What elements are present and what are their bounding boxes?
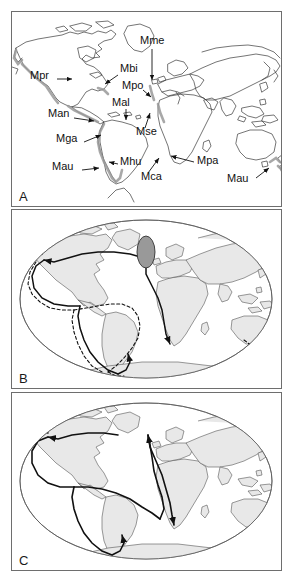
map-label-mca: Mca	[141, 171, 162, 182]
map-label-mpa: Mpa	[197, 155, 218, 166]
panel-c: C	[11, 392, 282, 571]
map-label-mse: Mse	[136, 126, 157, 137]
map-label-mga: Mga	[56, 133, 77, 144]
panel-b: B	[11, 209, 282, 389]
panel-a: Mpr Mbi Mme Mpo Mal Man Mse Mga Mhu Mau …	[11, 11, 282, 207]
ancestral-area-ellipse	[137, 236, 155, 268]
figure-root: Mpr Mbi Mme Mpo Mal Man Mse Mga Mhu Mau …	[0, 0, 293, 582]
map-label-mau-new-zealand: Mau	[227, 173, 248, 184]
map-label-mpo: Mpo	[122, 80, 143, 91]
map-label-mbi: Mbi	[120, 63, 138, 74]
panel-c-map	[12, 393, 281, 570]
panel-letter-a: A	[19, 190, 28, 203]
panel-a-leader-lines	[57, 49, 269, 178]
map-label-mpr: Mpr	[30, 70, 49, 81]
panel-letter-c: C	[19, 554, 29, 567]
map-label-man: Man	[48, 108, 69, 119]
map-label-mhu: Mhu	[120, 156, 141, 167]
map-label-mau-south-america: Mau	[52, 161, 73, 172]
panel-b-map	[12, 210, 281, 388]
map-label-mal: Mal	[112, 97, 130, 108]
panel-letter-b: B	[19, 372, 28, 385]
map-label-mme: Mme	[140, 35, 164, 46]
